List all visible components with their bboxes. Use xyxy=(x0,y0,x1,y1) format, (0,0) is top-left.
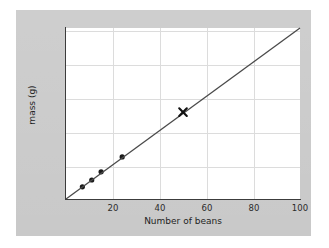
chart-figure: 250 200 150 100 50 20 40 60 80 100 Numbe… xyxy=(0,0,329,248)
data-series-layer xyxy=(0,0,329,248)
